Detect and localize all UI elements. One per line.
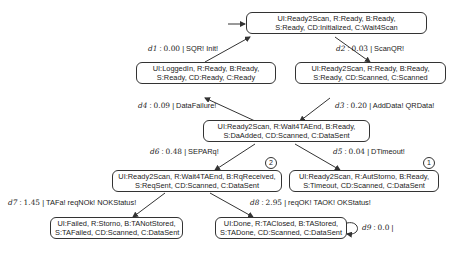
edge-label-d8: d8 : 2.95 | reqOK! TAOK! OKStatus! — [250, 198, 371, 207]
edge-label-d1: d1 : 0.00 | SQR! Init! — [148, 44, 218, 53]
edge-label-d3: d3 : 0.20 | AddData! QRData! — [335, 101, 434, 110]
state-node-done: UI:Done, R:TAClosed, B:TAStored, S:TADon… — [215, 217, 347, 239]
state-node-logged-in: UI:LoggedIn, R:Ready, B:Ready, S:Ready, … — [136, 62, 276, 84]
state-node-req-sent: UI:Ready2Scan, R:Wait4TAEnd, B:RqReceive… — [112, 170, 282, 192]
state-node-data-added: UI:Ready2Scan, R:Wait4TAEnd, B:Ready, S:… — [203, 120, 370, 142]
state-node-timeout: UI:Ready2Scan, R:AutStorno, B:Ready, S:T… — [289, 170, 439, 192]
marker-1: 1 — [423, 157, 435, 169]
edge-label-d9: d9 : 0.0 | — [362, 223, 393, 232]
edge-label-d2: d2 : 0.03 | ScanQR! — [336, 44, 404, 53]
state-node-scanned: UI:Ready2Scan, R:Ready, B:Ready, S:Ready… — [295, 62, 446, 84]
edge-label-d4: d4 : 0.09 | DataFailure! — [138, 101, 216, 110]
state-node-initial: UI:Ready2Scan, R:Ready, B:Ready, S:Ready… — [246, 12, 427, 34]
state-node-failed: UI:Failed, R:Storno, B:TANotStored, S:TA… — [50, 217, 183, 239]
edge-label-d6: d6 : 0.48 | SEPARq! — [150, 147, 219, 156]
edge-label-d5: d5 : 0.04 | DTimeout! — [333, 147, 405, 156]
edge-label-d7: d7 : 1.45 | TAFa! reqNOk! NOKStatus! — [8, 198, 136, 207]
marker-2: 2 — [265, 157, 277, 169]
